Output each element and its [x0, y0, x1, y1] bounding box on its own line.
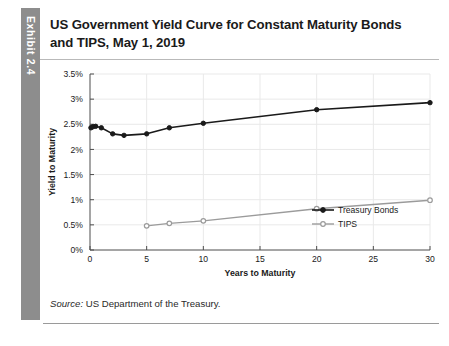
source-label: Source: [50, 298, 83, 309]
data-point [110, 132, 114, 136]
data-point [428, 198, 433, 203]
x-tick-label: 20 [312, 254, 322, 264]
legend-marker [321, 222, 326, 227]
exhibit-card: US Government Yield Curve for Constant M… [40, 8, 439, 320]
data-point [201, 219, 206, 224]
data-point [201, 121, 205, 125]
exhibit-tab: Exhibit 2.4 [21, 8, 40, 320]
y-tick-label: 1.5% [63, 170, 83, 180]
yield-curve-chart: 0%0.5%1%1.5%2%2.5%3%3.5%051015202530Year… [40, 60, 439, 294]
y-tick-label: 1% [71, 195, 84, 205]
y-tick-label: 2.5% [63, 119, 83, 129]
data-point [428, 100, 432, 104]
source-area: Source: US Department of the Treasury. [40, 294, 439, 320]
exhibit-title-area: US Government Yield Curve for Constant M… [40, 8, 439, 60]
exhibit-page: Exhibit 2.4 US Government Yield Curve fo… [0, 0, 449, 346]
x-tick-label: 10 [199, 254, 209, 264]
y-tick-label: 3% [71, 94, 84, 104]
data-point [314, 108, 318, 112]
page-title: US Government Yield Curve for Constant M… [50, 16, 425, 52]
bottom-divider [43, 323, 439, 324]
x-tick-label: 25 [369, 254, 379, 264]
source-note: Source: US Department of the Treasury. [50, 298, 220, 309]
x-axis-title: Years to Maturity [225, 268, 296, 278]
chart-plot-area: 0%0.5%1%1.5%2%2.5%3%3.5%051015202530Year… [40, 60, 439, 294]
y-tick-label: 2% [71, 145, 84, 155]
exhibit-tab-label: Exhibit 2.4 [25, 16, 36, 75]
source-value: US Department of the Treasury. [86, 298, 221, 309]
data-point [167, 221, 172, 226]
legend-marker [321, 208, 326, 213]
y-axis-title: Yield to Maturity [47, 128, 57, 196]
data-point [144, 224, 149, 229]
y-tick-label: 0% [71, 245, 84, 255]
y-tick-label: 3.5% [63, 69, 83, 79]
data-point [99, 126, 103, 130]
legend-label: TIPS [338, 219, 357, 229]
x-tick-label: 0 [88, 254, 93, 264]
legend-label: Treasury Bonds [338, 205, 398, 215]
data-point [167, 126, 171, 130]
x-tick-label: 30 [425, 254, 435, 264]
data-point [93, 124, 97, 128]
x-tick-label: 5 [144, 254, 149, 264]
data-point [144, 132, 148, 136]
x-tick-label: 15 [255, 254, 265, 264]
data-point [122, 133, 126, 137]
y-tick-label: 0.5% [63, 220, 83, 230]
